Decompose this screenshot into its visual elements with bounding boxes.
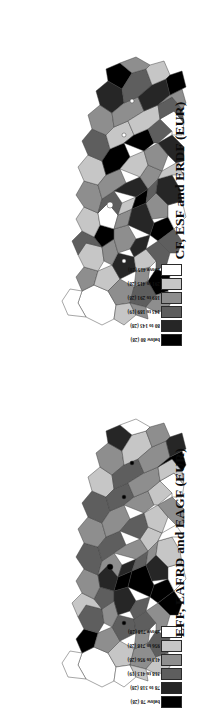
legend-label: 956 to 718 (28) — [114, 639, 160, 653]
figure-cf-esf-erdf: below 80 (28) 80 to 143 (28) 143 to 189 … — [0, 0, 199, 361]
legend-label: 80 to 143 (28) — [114, 319, 160, 333]
figure-caption: EFF, EAFRD and EAGF (EUR) — [172, 362, 188, 723]
legend-label: 291 to 415 (28) — [114, 277, 160, 291]
legend-label: below 78 (28) — [114, 695, 160, 709]
figure-caption: CF, ESF and ERDF (EUR) — [172, 0, 188, 361]
figure-eff-eafrd-eagf: below 78 (28) 78 to 318 (28) 318 to 413 … — [0, 362, 199, 723]
legend-label: below 80 (28) — [114, 333, 160, 347]
legend-label: above 415 (28) — [114, 263, 160, 277]
legend-label: 189 to 291 (28) — [114, 291, 160, 305]
legend-label: 413 to 956 (28) — [114, 653, 160, 667]
figure-rotated-panel: below 80 (28) 80 to 143 (28) 143 to 189 … — [0, 0, 199, 361]
legend-label: 78 to 318 (28) — [114, 681, 160, 695]
figure-rotated-panel: below 78 (28) 78 to 318 (28) 318 to 413 … — [0, 362, 199, 723]
legend-label: 143 to 189 (19) — [114, 305, 160, 319]
legend-label: 318 to 413 (19) — [114, 667, 160, 681]
legend-label: above 718 (28) — [114, 625, 160, 639]
